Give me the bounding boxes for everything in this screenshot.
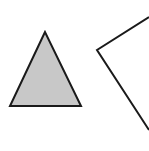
- background: [0, 0, 149, 151]
- diagram-canvas: [0, 0, 149, 151]
